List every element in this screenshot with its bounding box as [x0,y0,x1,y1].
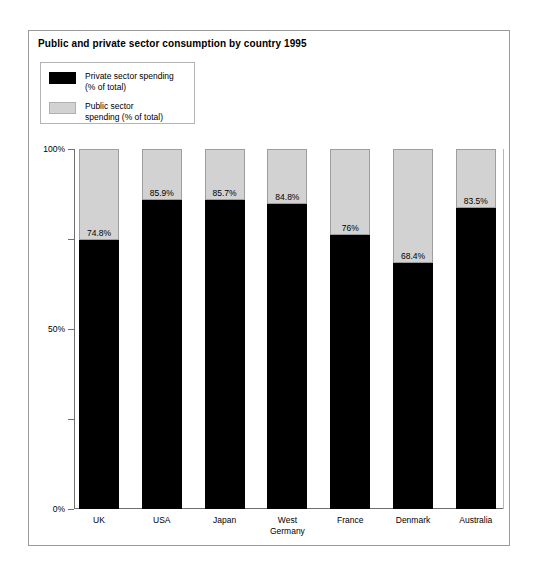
chart-title: Public and private sector consumption by… [38,38,307,49]
y-tick-25 [68,419,74,420]
bar-value-label: 85.9% [142,188,182,198]
bar-denmark[interactable]: 68.4%Denmark [393,149,433,509]
legend-label-public-line1: Public sector [85,101,134,111]
bar-segment-private [79,240,119,509]
legend-label-private-line1: Private sector spending [85,71,174,81]
y-tick-50 [68,329,74,330]
legend-label-private-line2: (% of total) [85,82,126,92]
bar-segment-private [205,200,245,509]
x-axis-label-line: USA [153,515,170,525]
bar-uk[interactable]: 74.8%UK [79,149,119,509]
x-axis-label-line: Denmark [396,515,430,525]
y-tick-0 [68,509,74,510]
legend-label-public: Public sector spending (% of total) [85,101,163,123]
bar-australia[interactable]: 83.5%Australia [456,149,496,509]
chart-legend: Private sector spending (% of total) Pub… [40,62,195,124]
bar-japan[interactable]: 85.7%Japan [205,149,245,509]
bar-segment-private [142,200,182,509]
x-axis-label-line: Japan [213,515,236,525]
bar-value-label: 74.8% [79,228,119,238]
y-tick-label-50: 50% [48,324,65,334]
bar-value-label: 85.7% [205,188,245,198]
bar-value-label: 84.8% [267,192,307,202]
x-axis-label-line: UK [93,515,105,525]
y-axis-line [74,149,75,509]
y-tick-label-0: 0% [53,504,65,514]
y-tick-75 [68,239,74,240]
y-tick-100 [68,149,74,150]
y-tick-label-100: 100% [43,144,65,154]
bar-value-label: 68.4% [393,251,433,261]
bar-segment-public [393,149,433,263]
bar-segment-private [393,263,433,509]
bar-segment-private [330,235,370,509]
x-axis-label-line: West [278,515,297,525]
legend-swatch-public-icon [49,102,76,114]
bar-segment-private [456,208,496,509]
x-axis-label-australia: Australia [439,515,513,526]
x-axis-label-line: Australia [459,515,492,525]
bar-value-label: 83.5% [456,196,496,206]
legend-label-public-line2: spending (% of total) [85,112,163,122]
bar-value-label: 76% [330,223,370,233]
legend-item-private: Private sector spending (% of total) [49,71,174,93]
chart-card: Public and private sector consumption by… [28,30,510,546]
plot-area: 100%50%0% 74.8%UK85.9%USA85.7%Japan84.8%… [74,149,504,509]
bar-segment-public [79,149,119,240]
x-axis-label-line: France [337,515,363,525]
plot-right-border [503,149,504,509]
bar-usa[interactable]: 85.9%USA [142,149,182,509]
x-axis-label-line: Germany [270,526,305,536]
bar-france[interactable]: 76%France [330,149,370,509]
legend-swatch-private-icon [49,72,76,84]
bar-west-germany[interactable]: 84.8%WestGermany [267,149,307,509]
legend-item-public: Public sector spending (% of total) [49,101,163,123]
bar-segment-private [267,204,307,509]
legend-label-private: Private sector spending (% of total) [85,71,174,93]
